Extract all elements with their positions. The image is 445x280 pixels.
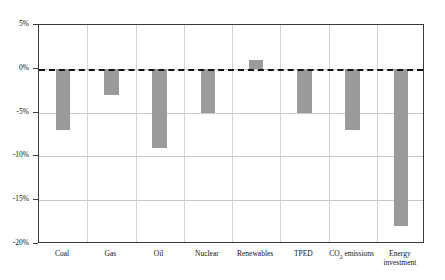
y-axis-label: -20% (13, 239, 29, 247)
gridline-vertical (280, 25, 281, 242)
y-axis-label: 0% (19, 64, 29, 72)
y-tick-mark (33, 112, 38, 113)
y-tick-mark (33, 68, 38, 69)
gridline-horizontal (39, 156, 423, 157)
y-axis-label: -15% (13, 195, 29, 203)
plot-area (38, 24, 424, 243)
gridline-vertical (329, 25, 330, 242)
x-axis-label-coal: Coal (38, 249, 86, 258)
gridline-vertical (232, 25, 233, 242)
bar-energy-investment (394, 69, 408, 227)
y-tick-mark (33, 243, 38, 244)
x-axis-label-oil: Oil (135, 249, 183, 258)
x-axis-label-tped: TPED (279, 249, 327, 258)
zero-reference-line (39, 69, 423, 71)
y-tick-mark (33, 199, 38, 200)
gridline-vertical (184, 25, 185, 242)
gridline-horizontal (39, 113, 423, 114)
bar-nuclear (201, 69, 215, 113)
bar-renewables (249, 60, 263, 69)
x-axis-label-gas: Gas (86, 249, 134, 258)
bar-chart: 5%0%-5%-10%-15%-20% CoalGasOilNuclearRen… (0, 0, 445, 280)
plot-inner (39, 25, 423, 242)
bar-gas (104, 69, 118, 95)
gridline-vertical (87, 25, 88, 242)
y-axis-label: 5% (19, 20, 29, 28)
gridline-horizontal (39, 200, 423, 201)
y-tick-mark (33, 24, 38, 25)
y-axis-label: -10% (13, 151, 29, 159)
x-axis-label-nuclear: Nuclear (183, 249, 231, 258)
gridline-vertical (377, 25, 378, 242)
bar-oil (152, 69, 166, 148)
x-axis-label-energy-investment: Energy investment (376, 249, 424, 267)
gridline-vertical (136, 25, 137, 242)
y-axis-label: -5% (17, 108, 30, 116)
bar-tped (297, 69, 311, 113)
x-axis-label-co2-emissions: CO2 emissions (328, 249, 376, 262)
bar-co2-emissions (345, 69, 359, 130)
y-tick-mark (33, 155, 38, 156)
bar-coal (56, 69, 70, 130)
x-axis-label-renewables: Renewables (231, 249, 279, 258)
